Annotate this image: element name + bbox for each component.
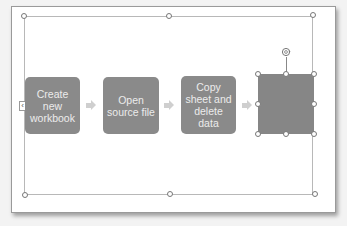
resize-handle-tr[interactable]: [311, 71, 317, 77]
resize-handle-tc[interactable]: [283, 71, 289, 77]
step-selected-empty[interactable]: [258, 74, 314, 134]
resize-handle-bottom-left[interactable]: [22, 192, 28, 198]
step-create-new-workbook[interactable]: Create new workbook: [25, 77, 80, 134]
resize-handle-bc[interactable]: [283, 131, 289, 137]
resize-handle-bottom-center[interactable]: [167, 191, 173, 197]
resize-handle-top-right[interactable]: [310, 12, 316, 18]
resize-handle-bottom-right[interactable]: [312, 191, 318, 197]
step-copy-sheet-delete-data[interactable]: Copy sheet and delete data: [181, 76, 236, 134]
resize-handle-mr[interactable]: [311, 101, 317, 107]
resize-handle-top-left[interactable]: [21, 13, 27, 19]
resize-handle-bl[interactable]: [255, 131, 261, 137]
step-label: Copy sheet and delete data: [183, 81, 234, 129]
step-label: Create new workbook: [27, 88, 78, 124]
step-label: Open source file: [105, 94, 157, 118]
rotate-handle-icon[interactable]: [281, 47, 291, 57]
resize-handle-tl[interactable]: [255, 71, 261, 77]
step-open-source-file[interactable]: Open source file: [103, 77, 159, 134]
resize-handle-ml[interactable]: [255, 101, 261, 107]
resize-handle-top-center[interactable]: [166, 13, 172, 19]
resize-handle-br[interactable]: [311, 131, 317, 137]
